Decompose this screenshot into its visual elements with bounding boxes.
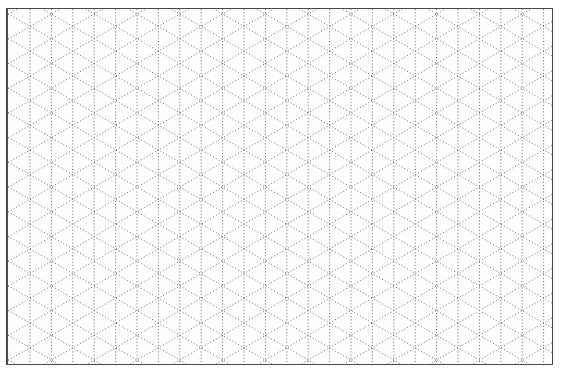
grid-line: [8, 9, 553, 58]
grid-line: [8, 14, 553, 330]
grid-line: [8, 9, 553, 138]
grid-line: [8, 286, 553, 365]
isometric-grid: [8, 9, 553, 365]
grid-line: [8, 9, 553, 157]
grid-line: [8, 9, 553, 231]
grid-line: [8, 9, 553, 181]
grid-line: [8, 292, 553, 365]
grid-line: [8, 162, 553, 365]
grid-line: [8, 9, 553, 89]
grid-line: [8, 193, 553, 365]
grid-line: [8, 9, 553, 64]
grid-line: [8, 316, 553, 365]
grid-line: [8, 9, 553, 305]
grid-line: [8, 218, 553, 365]
grid-line: [8, 94, 553, 365]
grid-line: [8, 69, 553, 365]
grid-line: [8, 20, 553, 336]
grid-line: [8, 261, 553, 365]
grid-line: [8, 143, 553, 365]
grid-line: [8, 119, 553, 365]
grid-line: [8, 168, 553, 365]
grid-line: [8, 341, 553, 365]
grid-line: [8, 360, 553, 365]
grid-line: [8, 9, 553, 280]
grid-line: [8, 9, 553, 187]
grid-line: [8, 9, 553, 163]
grid-line: [8, 38, 553, 354]
grid-line: [8, 187, 553, 365]
grid-line: [8, 45, 553, 361]
grid-line: [8, 242, 553, 365]
grid-sheet: [6, 8, 553, 365]
grid-line: [8, 9, 553, 113]
grid-line: [8, 9, 553, 33]
grid-line: [8, 9, 553, 262]
grid-line: [8, 9, 553, 82]
grid-line: [8, 211, 553, 365]
grid-line: [8, 9, 553, 206]
grid-line: [8, 310, 553, 365]
grid-line: [8, 9, 553, 132]
grid-line: [8, 9, 553, 212]
grid-line: [8, 236, 553, 365]
grid-line: [8, 9, 553, 255]
